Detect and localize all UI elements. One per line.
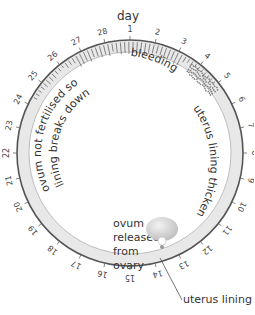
day-label-4: 4 bbox=[203, 51, 213, 61]
day-label-26: 26 bbox=[46, 49, 60, 62]
day-label-28: 28 bbox=[96, 27, 108, 38]
day-label-10: 10 bbox=[235, 200, 248, 213]
day-label-9: 9 bbox=[246, 177, 254, 184]
svg-text:from: from bbox=[113, 245, 139, 258]
day-label-16: 16 bbox=[96, 268, 108, 279]
day-label-13: 13 bbox=[177, 258, 190, 271]
day-label-17: 17 bbox=[70, 258, 83, 271]
svg-text:ovum: ovum bbox=[113, 217, 144, 230]
day-label-18: 18 bbox=[46, 243, 60, 256]
day-label-22: 22 bbox=[2, 148, 11, 158]
day-label-7: 7 bbox=[246, 122, 254, 129]
day-label-11: 11 bbox=[220, 224, 233, 238]
day-label-27: 27 bbox=[70, 35, 83, 48]
day-label-3: 3 bbox=[180, 36, 188, 46]
day-label-19: 19 bbox=[26, 224, 39, 238]
day-label-25: 25 bbox=[26, 69, 39, 83]
day-label-5: 5 bbox=[222, 71, 232, 81]
day-label-2: 2 bbox=[154, 27, 161, 37]
day-label-21: 21 bbox=[4, 175, 15, 187]
day-label-6: 6 bbox=[237, 95, 247, 103]
day-label-24: 24 bbox=[12, 93, 25, 106]
menstrual-cycle-diagram: 1234567891011121314151617181920212223242… bbox=[0, 0, 254, 315]
day-label-12: 12 bbox=[201, 243, 215, 256]
day-label-23: 23 bbox=[4, 119, 15, 131]
svg-text:ovary: ovary bbox=[113, 259, 145, 272]
day-label-15: 15 bbox=[125, 273, 135, 282]
uterus-lining-label: uterus lining bbox=[183, 293, 252, 306]
day-title: day bbox=[117, 9, 139, 23]
day-label-8: 8 bbox=[250, 150, 255, 155]
day-label-14: 14 bbox=[152, 268, 164, 279]
day-label-1: 1 bbox=[127, 25, 132, 34]
day-label-20: 20 bbox=[12, 200, 25, 213]
